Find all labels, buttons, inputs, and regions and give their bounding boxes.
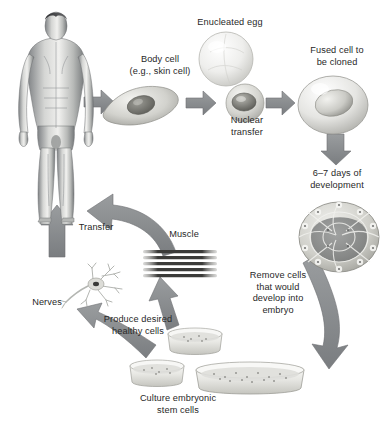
fused-cell-label: Fused cell to be cloned — [296, 45, 378, 68]
skin-cell-figure — [100, 82, 184, 128]
produce-healthy-cells-label: Produce desired healthy cells — [92, 314, 184, 337]
arrow-egg-to-fused-cell — [266, 91, 295, 115]
arrow-fused-cell-to-blastocyst — [321, 134, 351, 165]
muscle-label: Muscle — [160, 229, 208, 241]
petri-dish-small-left — [126, 356, 188, 390]
development-time-label: 6–7 days of development — [296, 168, 378, 191]
nerves-label: Nerves — [22, 297, 72, 309]
body-cell-label: Body cell (e.g., skin cell) — [118, 54, 202, 77]
human-body-figure — [10, 8, 102, 223]
arrow-skin-cell-to-egg — [186, 91, 216, 115]
diagram-canvas: Body cell (e.g., skin cell) Enucleated e… — [0, 0, 387, 421]
culture-stem-cells-caption: Culture embryonic stem cells — [130, 393, 226, 416]
nuclear-transfer-label: Nuclear transfer — [218, 115, 276, 138]
transfer-label: Transfer — [68, 222, 124, 234]
muscle-fibers-figure — [142, 248, 218, 278]
enucleated-egg-label: Enucleated egg — [184, 17, 276, 29]
remove-cells-label: Remove cells that would develop into emb… — [238, 270, 318, 316]
enucleated-egg-figure — [196, 30, 258, 90]
petri-dish-large — [192, 358, 308, 398]
blastocyst-figure — [296, 200, 382, 274]
fused-cell-figure — [296, 74, 374, 136]
